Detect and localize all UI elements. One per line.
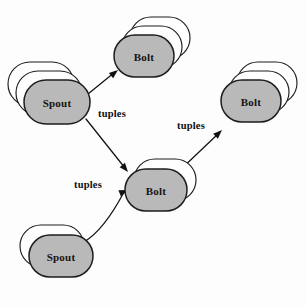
nodes-layer: SpoutBoltBoltBoltSpout	[8, 17, 297, 277]
node-spout-top-left[interactable]: Spout	[8, 62, 90, 124]
diagram-canvas: SpoutBoltBoltBoltSpout tuplestuplestuple…	[0, 0, 306, 307]
edge-spout-top-left-to-bolt-top	[88, 67, 120, 94]
edge-label-tuples-label-upper-left: tuples	[98, 108, 126, 119]
edge-line	[84, 192, 124, 242]
edges-layer	[84, 67, 224, 242]
node-label: Bolt	[241, 96, 261, 108]
node-label: Bolt	[134, 51, 154, 63]
node-bolt-middle[interactable]: Bolt	[125, 159, 196, 211]
node-bolt-top[interactable]: Bolt	[114, 17, 190, 77]
node-spout-bottom-left[interactable]: Spout	[20, 225, 93, 277]
node-label: Spout	[43, 97, 72, 109]
node-label: Bolt	[146, 185, 166, 197]
node-label: Spout	[47, 251, 76, 263]
arrowhead-icon	[120, 163, 131, 174]
edge-label-tuples-label-lower-left: tuples	[74, 179, 102, 190]
topology-diagram: SpoutBoltBoltBoltSpout tuplestuplestuple…	[0, 0, 306, 307]
node-bolt-right[interactable]: Bolt	[221, 62, 297, 122]
edge-spout-top-left-to-bolt-middle	[86, 119, 131, 174]
edge-label-tuples-label-right: tuples	[177, 120, 205, 131]
edge-line	[86, 119, 125, 168]
edge-spout-bottom-left-to-bolt-middle	[84, 187, 129, 242]
